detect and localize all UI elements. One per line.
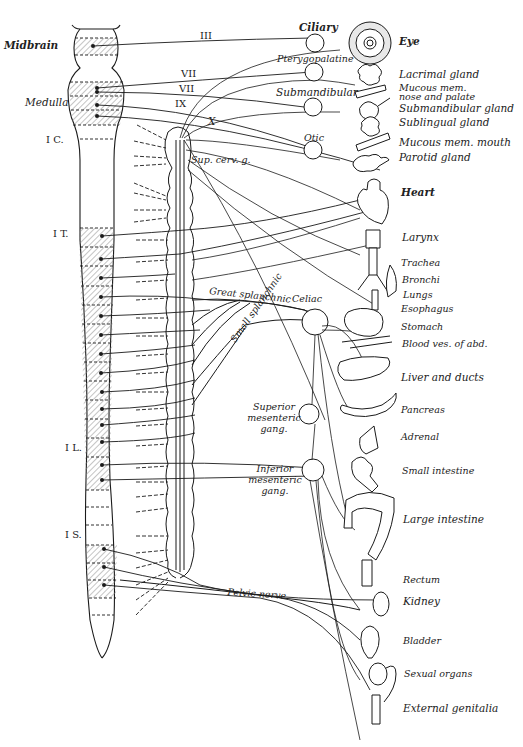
label-cranial-nerve-VII-a: VII	[181, 68, 196, 79]
celiac-ganglion	[302, 309, 328, 335]
adrenal-organ	[360, 426, 378, 454]
label-stomach: Stomach	[401, 321, 443, 332]
mucous-nose-organ	[355, 85, 386, 98]
superior-mesenteric-ganglion	[299, 404, 319, 424]
label-ciliary-ganglion: Ciliary	[299, 22, 338, 33]
label-first-cervical: I C.	[46, 134, 64, 145]
ganglia-to-viscera	[310, 325, 370, 740]
label-superior-mesenteric-ganglion: Superior mesenteric gang.	[246, 401, 302, 434]
label-pterygopalatine-ganglion: Pterygopalatine	[277, 53, 354, 64]
label-superior-cervical-ganglion: Sup. cerv. g.	[191, 154, 251, 165]
liver-organ	[338, 357, 390, 381]
trachea-organ	[369, 248, 377, 275]
small-intestine-organ	[352, 457, 378, 492]
label-large-intestine: Large intestine	[403, 514, 484, 525]
pancreas-organ	[340, 393, 396, 417]
label-eye: Eye	[399, 36, 420, 47]
label-midbrain: Midbrain	[4, 40, 58, 51]
pterygopalatine-ganglion	[305, 63, 323, 81]
label-cranial-nerve-VII-b: VII	[179, 83, 194, 94]
large-intestine-organ	[344, 492, 394, 560]
label-mucous-nose-2: nose and palate	[399, 91, 475, 102]
label-submandibular-ganglion: Submandibular	[276, 87, 358, 98]
label-rectum: Rectum	[403, 574, 440, 585]
label-submandibular-gland: Submandibular gland	[399, 103, 514, 114]
lungs-organ	[386, 265, 396, 297]
inferior-mesenteric-ganglion	[302, 459, 324, 481]
label-bladder: Bladder	[403, 635, 441, 646]
external-genitalia-organ	[372, 695, 380, 724]
label-bronchi: Bronchi	[402, 274, 440, 285]
label-cranial-nerve-III: III	[200, 30, 212, 41]
label-blood-vessels: Blood ves. of abd.	[402, 338, 488, 349]
kidney-organ	[373, 592, 389, 616]
label-first-sacral: I S.	[65, 529, 82, 540]
label-larynx: Larynx	[402, 232, 439, 243]
label-celiac-ganglion: Celiac	[292, 293, 322, 304]
label-liver: Liver and ducts	[401, 372, 484, 383]
eye-organ	[349, 22, 391, 64]
lacrimal-organ	[358, 64, 382, 85]
preganglionic-nuclei-shading	[69, 38, 123, 598]
label-heart: Heart	[401, 187, 435, 198]
label-sexual-organs: Sexual organs	[404, 668, 472, 679]
label-cranial-nerve-IX: IX	[175, 98, 186, 109]
collateral-ganglia	[299, 309, 328, 481]
bladder-organ	[361, 626, 379, 658]
larynx-organ	[366, 230, 380, 248]
submandibular-ganglion	[304, 98, 322, 116]
sympathetic-trunk	[165, 127, 194, 578]
label-cranial-nerve-X: X	[208, 116, 215, 127]
ciliary-ganglion	[306, 34, 324, 52]
label-lacrimal-gland: Lacrimal gland	[399, 69, 479, 80]
heart-organ	[357, 179, 388, 224]
label-esophagus: Esophagus	[401, 303, 453, 314]
label-first-lumbar: I L.	[65, 442, 82, 453]
label-parotid-gland: Parotid gland	[399, 152, 471, 163]
label-small-intestine: Small intestine	[402, 465, 474, 476]
label-pancreas: Pancreas	[401, 404, 445, 415]
rectum-organ	[362, 560, 372, 586]
stomach-organ	[344, 308, 383, 336]
label-otic-ganglion: Otic	[304, 132, 324, 143]
label-lungs: Lungs	[403, 289, 433, 300]
label-adrenal: Adrenal	[401, 431, 439, 442]
label-medulla: Medulla	[25, 97, 68, 108]
label-trachea: Trachea	[401, 257, 440, 268]
otic-ganglion	[304, 141, 322, 159]
esophagus-organ	[372, 290, 378, 310]
label-sublingual-gland: Sublingual gland	[399, 117, 489, 128]
label-mucous-mouth: Mucous mem. mouth	[399, 137, 511, 148]
autonomic-nervous-system-diagram: Midbrain Medulla I C. I T. I L. I S. III…	[0, 0, 523, 747]
parotid-organ	[353, 154, 389, 171]
label-external-genitalia: External genitalia	[403, 703, 498, 714]
label-inferior-mesenteric-ganglion: Inferior mesenteric gang.	[247, 463, 303, 496]
sublingual-organ	[361, 117, 379, 136]
organs	[338, 22, 397, 724]
label-first-thoracic: I T.	[53, 228, 69, 239]
label-kidney: Kidney	[403, 596, 440, 607]
bronchi-organ	[358, 275, 388, 292]
sexual-organs-organ	[369, 663, 387, 685]
